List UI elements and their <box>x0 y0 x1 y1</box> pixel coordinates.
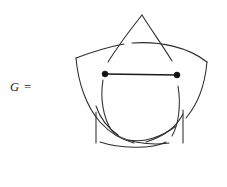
figure-root: G = <box>0 0 227 187</box>
graph-edge <box>105 74 177 75</box>
vertex-dot-right <box>174 72 180 78</box>
knot-diagram <box>0 0 227 187</box>
strand-top-to-bottom-right <box>102 15 169 144</box>
strand-top-to-bottom-left <box>100 15 179 147</box>
strand-left-to-bottom-right <box>76 58 183 143</box>
vertex-dot-left <box>102 71 108 77</box>
strand-left-to-right <box>76 43 207 62</box>
